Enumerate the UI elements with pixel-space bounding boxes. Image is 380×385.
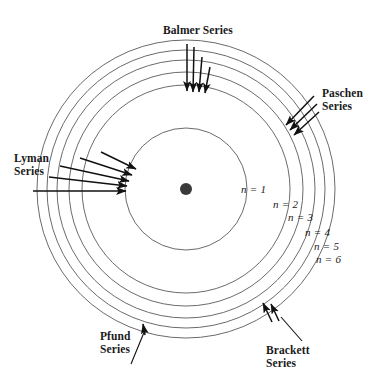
balmer-arrow-2 — [193, 47, 194, 92]
label-lyman-series-line2: Series — [14, 165, 49, 178]
shell-label-n3: n = 3 — [288, 211, 313, 223]
shell-label-n4: n = 4 — [305, 226, 330, 238]
label-pfund-series: Pfund Series — [100, 330, 131, 355]
balmer-arrow-4 — [205, 67, 210, 93]
label-brackett-series-line1: Brackett — [266, 344, 310, 357]
balmer-arrow-3 — [199, 57, 202, 92]
shell-label-n2: n = 2 — [273, 198, 298, 210]
orbit-canvas — [0, 0, 380, 385]
shell-label-n1: n = 1 — [241, 183, 266, 195]
brackett-arrow-1 — [263, 303, 272, 322]
bohr-model-diagram: Balmer Series Paschen Series Lyman Serie… — [0, 0, 380, 385]
label-paschen-series-line2: Series — [322, 100, 363, 113]
label-pfund-series-line2: Series — [100, 343, 131, 356]
label-paschen-series-line1: Paschen — [322, 87, 363, 100]
label-brackett-series: Brackett Series — [266, 344, 310, 369]
brackett-arrows — [263, 303, 302, 341]
shell-label-n5: n = 5 — [314, 240, 339, 252]
label-brackett-series-line2: Series — [266, 357, 310, 370]
label-paschen-series: Paschen Series — [322, 87, 363, 112]
label-lyman-series: Lyman Series — [14, 152, 49, 177]
label-lyman-series-line1: Lyman — [14, 152, 49, 165]
nucleus — [180, 183, 192, 195]
brackett-leader — [281, 317, 302, 341]
pfund-leader — [131, 330, 145, 364]
label-balmer-series: Balmer Series — [163, 24, 233, 37]
paschen-arrows — [286, 96, 319, 135]
label-pfund-series-line1: Pfund — [100, 330, 131, 343]
shell-label-n6: n = 6 — [316, 253, 341, 265]
label-balmer-series-line1: Balmer Series — [163, 24, 233, 37]
